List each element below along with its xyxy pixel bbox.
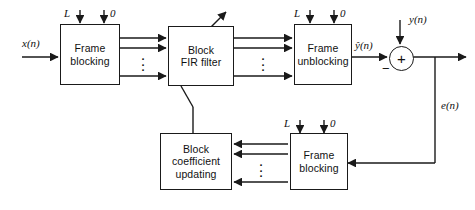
- coefficient-updating-line-3: updating: [172, 168, 220, 181]
- label-input-x: x(n): [22, 38, 40, 48]
- summing-junction[interactable]: +: [389, 46, 414, 71]
- coefficient-updating-line-2: coefficient: [172, 155, 220, 168]
- label-0-bottom-blocking: 0: [330, 118, 336, 128]
- ellipsis-bottom-blocking-to-coef: ...: [258, 160, 264, 177]
- label-filter-output-yhat: ŷ(n): [355, 40, 373, 50]
- block-frame-blocking-bottom[interactable]: Frame blocking: [290, 133, 348, 190]
- block-frame-blocking-top[interactable]: Frame blocking: [60, 24, 120, 85]
- block-frame-unblocking[interactable]: Frame unblocking: [294, 24, 352, 85]
- block-diagram-canvas: Frame blocking Block FIR filter Frame un…: [0, 0, 475, 210]
- frame-unblocking-line-2: unblocking: [297, 55, 348, 68]
- frame-blocking-bottom-line-1: Frame: [299, 149, 338, 162]
- label-0-top-blocking: 0: [110, 8, 116, 18]
- frame-unblocking-line-1: Frame: [297, 42, 348, 55]
- label-desired-y: y(n): [409, 14, 427, 24]
- ellipsis-fir-to-unblocking: ...: [260, 54, 266, 71]
- block-fir-filter-line-2: FIR filter: [181, 56, 222, 69]
- label-L-top-blocking: L: [64, 8, 70, 18]
- block-fir-filter-line-1: Block: [181, 44, 222, 57]
- label-0-unblocking: 0: [340, 8, 346, 18]
- frame-blocking-top-line-2: blocking: [70, 55, 109, 68]
- label-error-e: e(n): [441, 100, 459, 110]
- label-L-unblocking: L: [294, 8, 300, 18]
- coefficient-updating-line-1: Block: [172, 143, 220, 156]
- ellipsis-blocking-to-fir: ...: [140, 54, 146, 71]
- summer-minus-sign: −: [382, 62, 390, 75]
- summer-plus-sign: +: [390, 47, 413, 70]
- block-block-coefficient-updating[interactable]: Block coefficient updating: [160, 133, 232, 190]
- wire-coef-update-diagonal: [181, 86, 193, 107]
- block-block-fir-filter[interactable]: Block FIR filter: [168, 26, 234, 86]
- frame-blocking-top-line-1: Frame: [70, 42, 109, 55]
- frame-blocking-bottom-line-2: blocking: [299, 162, 338, 175]
- label-L-bottom-blocking: L: [284, 118, 290, 128]
